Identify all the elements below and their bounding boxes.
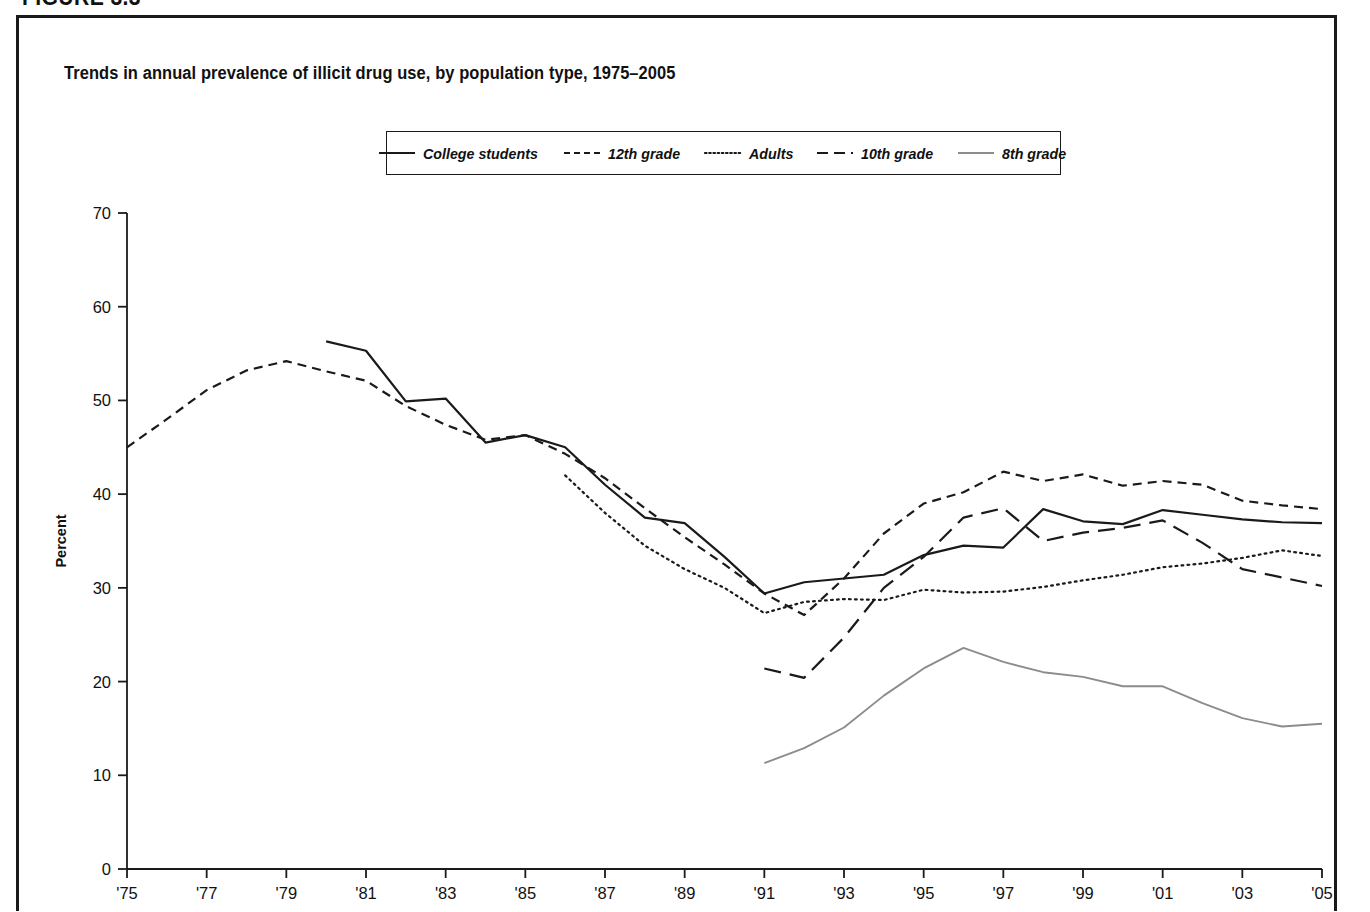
x-tick-label: '81 bbox=[355, 884, 377, 902]
y-tick-label: 0 bbox=[102, 860, 111, 878]
y-tick-label: 30 bbox=[93, 579, 111, 597]
y-tick-label: 50 bbox=[93, 391, 111, 409]
axis-layer: 010203040506070Percent'75'77'79'81'83'85… bbox=[53, 204, 1333, 902]
x-tick-label: '03 bbox=[1232, 884, 1254, 902]
x-tick-label: '97 bbox=[993, 884, 1015, 902]
series-line-college-students bbox=[326, 341, 1322, 593]
x-tick-label: '89 bbox=[674, 884, 696, 902]
y-tick-label: 40 bbox=[93, 485, 111, 503]
x-tick-label: '83 bbox=[435, 884, 457, 902]
x-tick-label: '93 bbox=[833, 884, 855, 902]
x-tick-label: '75 bbox=[116, 884, 138, 902]
x-tick-label: '99 bbox=[1072, 884, 1094, 902]
y-tick-label: 60 bbox=[93, 298, 111, 316]
y-tick-label: 10 bbox=[93, 766, 111, 784]
chart-plot: 010203040506070Percent'75'77'79'81'83'85… bbox=[0, 0, 1370, 912]
x-tick-label: '85 bbox=[515, 884, 537, 902]
y-tick-label: 70 bbox=[93, 204, 111, 222]
x-tick-label: '79 bbox=[276, 884, 298, 902]
series-line-12th-grade bbox=[127, 361, 1322, 615]
y-tick-label: 20 bbox=[93, 673, 111, 691]
x-tick-label: '01 bbox=[1152, 884, 1174, 902]
series-line-8th-grade bbox=[764, 648, 1322, 763]
x-tick-label: '87 bbox=[594, 884, 616, 902]
x-tick-label: '91 bbox=[754, 884, 776, 902]
x-tick-label: '05 bbox=[1311, 884, 1333, 902]
x-tick-label: '77 bbox=[196, 884, 218, 902]
series-layer bbox=[127, 341, 1322, 763]
x-tick-label: '95 bbox=[913, 884, 935, 902]
series-line-adults bbox=[565, 475, 1322, 613]
y-axis-title: Percent bbox=[53, 514, 69, 567]
series-line-10th-grade bbox=[764, 508, 1322, 678]
